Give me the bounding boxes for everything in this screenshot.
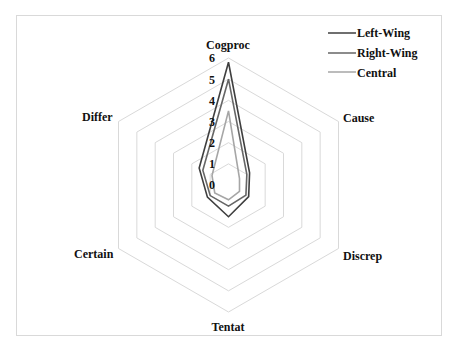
tick-label-1: 1 — [209, 157, 215, 171]
axis-label-certain: Certain — [74, 247, 114, 261]
legend-item-central: Central — [328, 66, 397, 80]
legend-label-left-wing: Left-Wing — [357, 26, 410, 40]
axis-label-differ: Differ — [82, 110, 113, 124]
axis-label-tentat: Tentat — [212, 320, 245, 334]
legend-item-left-wing: Left-Wing — [328, 26, 410, 40]
tick-label-6: 6 — [209, 51, 215, 65]
legend-label-right-wing: Right-Wing — [357, 46, 417, 60]
legend: Left-Wing Right-Wing Central — [328, 26, 417, 80]
grid-ring-6 — [119, 58, 339, 312]
tick-label-3: 3 — [209, 115, 215, 129]
radar-series — [199, 62, 249, 217]
axis-label-discrep: Discrep — [343, 249, 382, 263]
tick-label-0: 0 — [209, 178, 215, 192]
tick-label-2: 2 — [209, 136, 215, 150]
legend-item-right-wing: Right-Wing — [328, 46, 417, 60]
legend-label-central: Central — [357, 66, 397, 80]
axis-label-cause: Cause — [343, 111, 375, 125]
tick-label-4: 4 — [209, 94, 215, 108]
radar-chart: 0 1 2 3 4 5 6 Cogproc Cause Discrep Tent… — [0, 0, 458, 351]
radar-grid — [119, 58, 339, 312]
axis-label-cogproc: Cogproc — [206, 38, 250, 52]
grid-ring-3 — [174, 122, 284, 249]
grid-ring-4 — [155, 100, 302, 269]
tick-label-5: 5 — [209, 73, 215, 87]
series-left-wing — [199, 62, 249, 217]
